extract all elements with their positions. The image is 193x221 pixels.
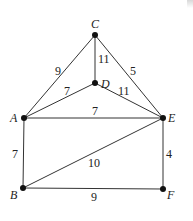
- node-C: [92, 32, 98, 38]
- node-label-B: B: [10, 188, 18, 202]
- edge-weight-D-A: 7: [64, 84, 70, 98]
- node-E: [160, 115, 166, 121]
- edge-weight-E-F: 4: [166, 147, 172, 161]
- node-D: [92, 80, 98, 86]
- edge-A-B: [23, 118, 24, 188]
- node-label-D: D: [100, 77, 110, 91]
- edge-B-F: [23, 188, 163, 189]
- node-F: [160, 186, 166, 192]
- edge-weight-A-B: 7: [12, 147, 18, 161]
- edge-weight-C-E: 5: [130, 64, 136, 78]
- edge-weight-A-E: 7: [92, 104, 98, 118]
- node-label-A: A: [9, 111, 18, 125]
- edge-B-E: [23, 118, 163, 188]
- node-label-C: C: [91, 17, 100, 31]
- edge-weight-C-A: 9: [55, 64, 61, 78]
- node-A: [21, 115, 27, 121]
- node-B: [20, 185, 26, 191]
- edge-weight-B-E: 10: [88, 156, 100, 170]
- edge-weight-D-E: 11: [118, 84, 130, 98]
- node-label-F: F: [166, 188, 175, 202]
- edge-D-A: [24, 83, 95, 118]
- node-label-E: E: [167, 111, 176, 125]
- edge-weight-C-D: 11: [98, 52, 110, 66]
- edge-weight-B-F: 9: [91, 190, 97, 204]
- corner-shadow: [187, 0, 193, 8]
- weighted-graph-diagram: 9511711771049CDAEBF: [0, 0, 193, 221]
